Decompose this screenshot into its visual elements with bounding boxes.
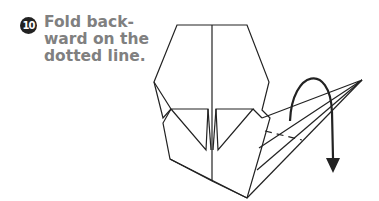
left-flap [171,109,208,150]
right-flap [216,109,253,150]
left-edge [154,82,171,118]
fold-arrow-arc [290,78,333,158]
fold-diagram [0,0,379,201]
arrow-head-icon [326,158,340,173]
tail-flap [259,80,362,148]
